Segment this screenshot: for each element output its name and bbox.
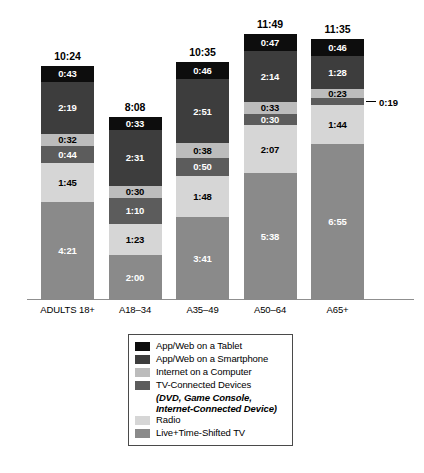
bar-total-label: 10:35 (189, 46, 215, 58)
bar-segment: 0:33 (109, 117, 162, 129)
legend-swatch (135, 416, 150, 425)
legend-label: Internet on a Computer (156, 366, 252, 378)
legend-item[interactable]: Internet on a Computer (135, 366, 286, 378)
legend-sublabel: Internet-Connected Device) (156, 403, 286, 414)
segment-value-label: 2:19 (58, 103, 77, 113)
bar-segment: 0:44 (41, 146, 94, 163)
bar-segment: 0:38 (176, 143, 229, 157)
legend-sublabel: (DVD, Game Console, (156, 392, 286, 403)
chart-legend: App/Web on a TabletApp/Web on a Smartpho… (128, 334, 293, 446)
legend-item[interactable]: TV-Connected Devices (135, 379, 286, 391)
bar-segment: 1:23 (109, 224, 162, 255)
segment-value-label: 1:10 (126, 206, 145, 216)
segment-value-label: 1:28 (328, 68, 347, 78)
bar-segment: 3:41 (176, 217, 229, 300)
legend-item[interactable]: Live+Time-Shifted TV (135, 427, 286, 439)
bar-stack: 2:001:231:100:302:310:338:08 (109, 117, 162, 300)
segment-value-label: 0:23 (328, 89, 347, 99)
legend-swatch (135, 355, 150, 364)
segment-value-label: 0:38 (193, 146, 212, 156)
legend-item[interactable]: App/Web on a Tablet (135, 340, 286, 352)
bar-segment: 5:38 (244, 173, 297, 300)
segment-value-label: 1:44 (328, 120, 347, 130)
bar-group: 6:551:440:231:280:4611:35 (311, 39, 364, 300)
segment-value-label: 0:50 (193, 162, 212, 172)
legend-swatch (135, 342, 150, 351)
bar-segment: 2:51 (176, 79, 229, 143)
legend-swatch (135, 429, 150, 438)
bar-total-label: 11:49 (257, 18, 283, 30)
legend-label: TV-Connected Devices (156, 379, 251, 391)
segment-value-label: 0:46 (328, 43, 347, 53)
segment-value-label: 0:33 (261, 103, 280, 113)
legend-label: App/Web on a Tablet (156, 340, 242, 352)
bar-total-label: 10:24 (54, 50, 80, 62)
bar-segment: 0:43 (41, 66, 94, 82)
bar-stack: 3:411:480:500:382:510:4610:35 (176, 62, 229, 300)
bar-segment: 0:33 (244, 102, 297, 114)
legend-swatch (135, 368, 150, 377)
bar-segment: 0:30 (244, 114, 297, 125)
bar-segment: 0:23 (311, 89, 364, 98)
segment-value-label: 1:23 (126, 235, 145, 245)
bar-segment: 2:00 (109, 255, 162, 300)
segment-value-label: 2:51 (193, 107, 212, 117)
segment-value-label: 1:45 (58, 178, 77, 188)
bar-group: 2:001:231:100:302:310:338:08 (109, 117, 162, 300)
bar-stack: 6:551:440:231:280:4611:35 (311, 39, 364, 300)
bar-segment: 0:30 (109, 186, 162, 197)
segment-value-label: 0:43 (58, 69, 77, 79)
bar-segment: 1:48 (176, 176, 229, 217)
segment-value-label: 2:31 (126, 153, 145, 163)
bar-segment: 1:10 (109, 198, 162, 224)
segment-value-label: 0:30 (126, 187, 145, 197)
bar-segment: 4:21 (41, 202, 94, 300)
legend-item[interactable]: App/Web on a Smartphone (135, 353, 286, 365)
segment-value-label: 5:38 (261, 232, 280, 242)
segment-value-label: 0:44 (58, 150, 77, 160)
segment-value-label: 2:07 (261, 145, 280, 155)
segment-value-label: 4:21 (58, 246, 77, 256)
legend-item[interactable]: Radio (135, 414, 286, 426)
legend-label: Radio (156, 414, 180, 426)
segment-value-label: 0:33 (126, 119, 145, 129)
bar-segment: 2:14 (244, 51, 297, 101)
bar-segment: 0:32 (41, 134, 94, 146)
legend-label: App/Web on a Smartphone (156, 353, 268, 365)
segment-value-label: 2:14 (261, 72, 280, 82)
callout-value-label: 0:19 (379, 97, 398, 108)
segment-value-label: 2:00 (126, 273, 145, 283)
bar-segment: 6:55 (311, 144, 364, 300)
bar-segment: 0:47 (244, 34, 297, 52)
callout-leader-line (366, 101, 376, 102)
bar-segment: 2:31 (109, 130, 162, 187)
bar-segment: 2:07 (244, 125, 297, 173)
bar-segment (311, 98, 364, 105)
bar-segment: 1:28 (311, 56, 364, 89)
segment-value-label: 3:41 (193, 254, 212, 264)
legend-label: Live+Time-Shifted TV (156, 427, 245, 439)
segment-value-label: 1:48 (193, 192, 212, 202)
bar-stack: 4:211:450:440:322:190:4310:24 (41, 66, 94, 300)
segment-value-label: 0:46 (193, 66, 212, 76)
bar-segment: 0:46 (311, 39, 364, 56)
bar-segment: 1:44 (311, 105, 364, 144)
bar-segment: 0:46 (176, 62, 229, 79)
bar-total-label: 11:35 (325, 23, 351, 35)
stacked-bar-chart: 4:211:450:440:322:190:4310:24ADULTS 18+2… (0, 0, 424, 318)
segment-value-label: 0:30 (261, 115, 280, 125)
segment-value-label: 0:47 (261, 38, 280, 48)
segment-value-label: 6:55 (328, 217, 347, 227)
bar-segment: 2:19 (41, 82, 94, 134)
bar-segment: 1:45 (41, 163, 94, 202)
x-axis-tick-label: A65+ (291, 304, 384, 315)
bar-total-label: 8:08 (125, 101, 146, 113)
bar-group: 4:211:450:440:322:190:4310:24 (41, 66, 94, 300)
bar-segment: 0:50 (176, 158, 229, 177)
bar-group: 3:411:480:500:382:510:4610:35 (176, 62, 229, 300)
legend-swatch (135, 381, 150, 390)
bar-stack: 5:382:070:300:332:140:4711:49 (244, 34, 297, 300)
segment-value-label: 0:32 (58, 135, 77, 145)
bar-group: 5:382:070:300:332:140:4711:49 (244, 34, 297, 300)
